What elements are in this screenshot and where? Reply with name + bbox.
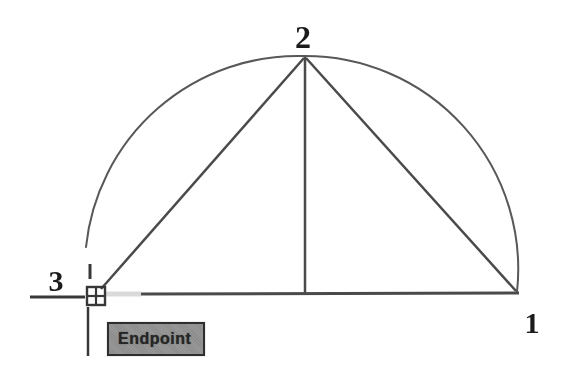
point-label-3: 3 [49,264,64,297]
osnap-tooltip: Endpoint [107,322,205,356]
cad-drawing-area: 2 3 1 Endpoint [0,0,569,370]
chord-line-2-1[interactable] [306,58,516,291]
point-label-2: 2 [295,19,311,55]
chord-line-2-3[interactable] [101,58,304,289]
osnap-tooltip-label: Endpoint [118,330,191,348]
arc-entity[interactable] [86,56,518,292]
baseline-entity[interactable] [141,293,519,294]
crosshair-cursor [30,264,105,356]
entities-layer [86,56,519,294]
drawing-canvas: 2 3 1 [0,0,569,370]
point-label-1: 1 [525,306,540,339]
